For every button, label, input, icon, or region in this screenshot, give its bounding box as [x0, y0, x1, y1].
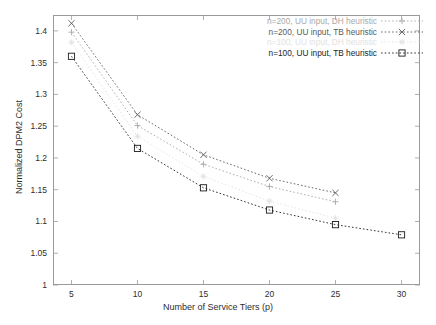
y-tick-label: 1.25: [7, 122, 47, 131]
y-tick-label: 1: [7, 281, 47, 290]
x-tick-label: 15: [188, 290, 218, 299]
series-3: [68, 39, 338, 221]
y-tick-label: 1.3: [7, 90, 47, 99]
chart-legend: n=200, UU input, DH heuristicn=200, UU i…: [244, 16, 424, 58]
legend-label: n=100, UU input, TB heuristic: [269, 48, 380, 58]
legend-line-sample: [380, 48, 424, 58]
chart-figure: 11.051.11.151.21.251.31.351.4 5101520253…: [0, 0, 436, 325]
x-tick-label: 30: [387, 290, 417, 299]
y-tick-label: 1.35: [7, 59, 47, 68]
y-axis-title: Normalized DPM2 Cost: [14, 72, 24, 222]
legend-label: n=100, UU input, DH heuristic: [267, 37, 380, 47]
y-tick-label: 1.05: [7, 249, 47, 258]
series-4: [68, 53, 404, 238]
y-tick-label: 1.15: [7, 186, 47, 195]
y-tick-label: 1.2: [7, 154, 47, 163]
x-tick-label: 25: [321, 290, 351, 299]
x-tick-label: 5: [56, 290, 86, 299]
legend-line-sample: [380, 27, 424, 37]
y-tick-label: 1.1: [7, 217, 47, 226]
legend-label: n=200, UU input, TB heuristic: [269, 27, 380, 37]
x-tick-label: 10: [122, 290, 152, 299]
legend-item: n=200, UU input, DH heuristic: [244, 16, 424, 27]
legend-label: n=200, UU input, DH heuristic: [267, 16, 380, 26]
x-tick-label: 20: [255, 290, 285, 299]
legend-line-sample: [380, 37, 424, 47]
x-axis-title: Number of Service Tiers (p): [0, 302, 436, 312]
legend-line-sample: [380, 16, 424, 26]
legend-item: n=100, UU input, TB heuristic: [244, 48, 424, 59]
legend-item: n=100, UU input, DH heuristic: [244, 37, 424, 48]
legend-item: n=200, UU input, TB heuristic: [244, 27, 424, 38]
y-tick-label: 1.4: [7, 27, 47, 36]
